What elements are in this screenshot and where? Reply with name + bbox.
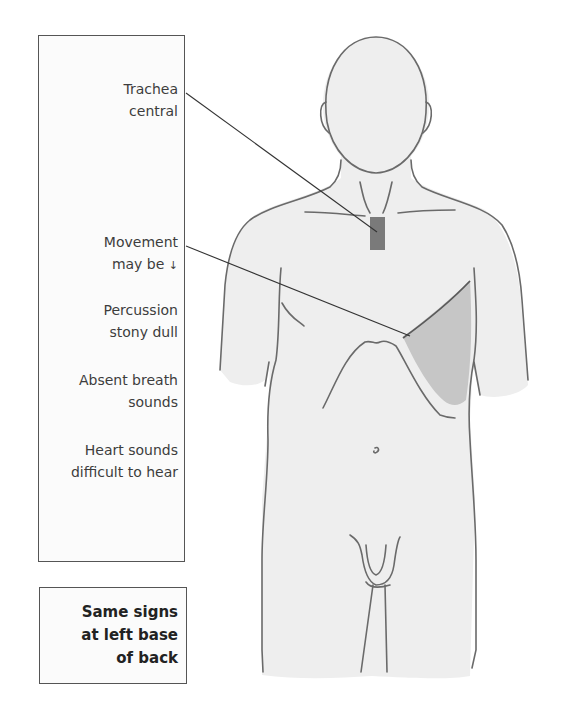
sign-movement: Movement may be ↓	[104, 231, 178, 277]
sign-trachea-line1: Trachea	[123, 78, 178, 100]
body-silhouette	[220, 37, 528, 678]
sign-breath-sounds: Absent breath sounds	[79, 369, 178, 413]
sign-heart-sounds-line2: difficult to hear	[71, 461, 178, 483]
sign-percussion-line1: Percussion	[104, 299, 179, 321]
sign-breath-sounds-line2: sounds	[79, 391, 178, 413]
sign-trachea-line2: central	[123, 100, 178, 122]
trachea-marker	[370, 217, 385, 250]
sign-trachea: Trachea central	[123, 78, 178, 122]
back-signs-text: Same signs at left base of back	[81, 601, 178, 670]
sign-percussion: Percussion stony dull	[104, 299, 179, 343]
back-signs-box: Same signs at left base of back	[39, 587, 187, 684]
sign-heart-sounds: Heart sounds difficult to hear	[71, 439, 178, 483]
sign-movement-line2-row: may be ↓	[104, 253, 178, 277]
sign-heart-sounds-line1: Heart sounds	[71, 439, 178, 461]
sign-breath-sounds-line1: Absent breath	[79, 369, 178, 391]
clinical-signs-box: Trachea central Movement may be ↓ Percus…	[38, 35, 185, 562]
down-arrow-icon: ↓	[169, 259, 178, 272]
sign-percussion-line2: stony dull	[104, 321, 179, 343]
sign-movement-line1: Movement	[104, 231, 178, 253]
sign-movement-line2: may be	[112, 256, 164, 272]
